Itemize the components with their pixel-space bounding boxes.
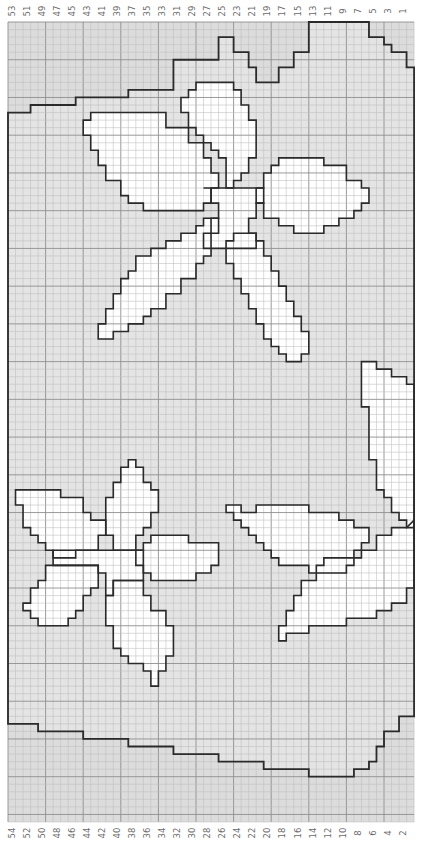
column-label: 30 [187,825,197,841]
column-label: 14 [308,825,318,841]
column-label: 26 [217,825,227,841]
column-label: 4 [383,825,393,841]
column-label: 24 [232,825,242,841]
column-label: 40 [112,825,122,841]
column-label: 38 [127,825,137,841]
column-label: 34 [157,825,167,841]
column-label: 10 [338,825,348,841]
column-label: 32 [172,825,182,841]
column-label: 12 [323,825,333,841]
column-label: 18 [277,825,287,841]
column-label: 54 [7,825,17,841]
column-label: 48 [52,825,62,841]
bottom-column-labels: 5452504846444240383634323028262422201816… [0,822,424,844]
column-label: 46 [67,825,77,841]
column-label: 44 [82,825,92,841]
column-label: 2 [398,825,408,841]
column-label: 6 [368,825,378,841]
column-label: 22 [247,825,257,841]
column-label: 36 [142,825,152,841]
column-label: 28 [202,825,212,841]
stitch-chart [0,0,424,844]
column-label: 52 [22,825,32,841]
column-label: 8 [353,825,363,841]
column-label: 20 [262,825,272,841]
column-label: 42 [97,825,107,841]
column-label: 50 [37,825,47,841]
column-label: 16 [293,825,303,841]
